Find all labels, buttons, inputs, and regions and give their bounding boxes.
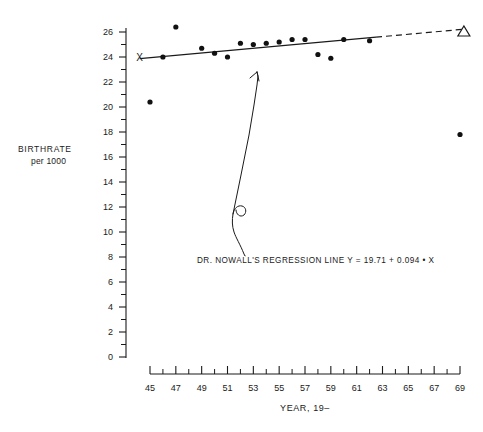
y-tick-label: 2 — [108, 327, 113, 337]
y-tick-label: 20 — [103, 102, 113, 112]
data-point — [315, 52, 320, 57]
end-marker-group — [458, 26, 470, 36]
data-point — [251, 42, 256, 47]
y-tick-label: 12 — [103, 202, 113, 212]
data-point — [277, 39, 282, 44]
y-tick-label: 0 — [108, 352, 113, 362]
chart-canvas: BIRTHRATE per 1000 024681012141618202224… — [0, 0, 483, 432]
data-point — [302, 37, 307, 42]
x-axis-title: YEAR, 19– — [280, 403, 330, 413]
data-point — [147, 99, 152, 104]
x-tick-label: 55 — [274, 383, 284, 393]
data-points-group — [147, 24, 462, 137]
x-tick-label: 47 — [171, 383, 181, 393]
x-start-marker: X — [136, 52, 143, 63]
x-tick-label: 69 — [455, 383, 465, 393]
x-tick-label: 57 — [300, 383, 310, 393]
data-point — [264, 41, 269, 46]
y-axis-ticks: 02468101214161820222426 — [103, 27, 126, 362]
data-point — [160, 54, 165, 59]
y-tick-label: 6 — [108, 277, 113, 287]
data-point — [199, 46, 204, 51]
regression-line-solid — [140, 37, 376, 59]
data-point — [457, 132, 462, 137]
x-tick-label: 61 — [352, 383, 362, 393]
data-point — [173, 24, 178, 29]
x-tick-label: 45 — [145, 383, 155, 393]
x-tick-label: 67 — [429, 383, 439, 393]
data-point — [289, 37, 294, 42]
regression-line-dashed — [376, 29, 464, 37]
open-triangle-projection-marker — [458, 26, 470, 36]
y-tick-label: 4 — [108, 302, 113, 312]
x-tick-label: 59 — [326, 383, 336, 393]
regression-equation-label: DR. NOWALL'S REGRESSION LINE Y = 19.71 +… — [197, 256, 435, 265]
x-axis: 45474951535557596163656769 YEAR, 19– — [145, 366, 465, 413]
start-marker-group: X — [136, 52, 143, 63]
data-point — [212, 51, 217, 56]
y-axis-title-line1: BIRTHRATE — [18, 144, 72, 154]
y-tick-label: 18 — [103, 127, 113, 137]
regression-line-group — [140, 29, 464, 58]
annotation-leader-line — [232, 72, 258, 256]
y-axis-title-line2: per 1000 — [31, 156, 66, 166]
annotation-squiggle — [233, 206, 246, 216]
y-tick-label: 24 — [103, 52, 113, 62]
y-tick-label: 16 — [103, 152, 113, 162]
x-tick-label: 63 — [377, 383, 387, 393]
data-point — [225, 54, 230, 59]
y-tick-label: 8 — [108, 252, 113, 262]
x-tick-label: 53 — [248, 383, 258, 393]
y-axis-title-group: BIRTHRATE per 1000 — [18, 144, 72, 166]
x-tick-label: 65 — [403, 383, 413, 393]
y-axis: 02468101214161820222426 — [103, 27, 126, 362]
y-tick-label: 26 — [103, 27, 113, 37]
data-point — [238, 41, 243, 46]
x-tick-label: 51 — [222, 383, 232, 393]
y-tick-label: 10 — [103, 227, 113, 237]
x-axis-ticks: 45474951535557596163656769 — [145, 366, 465, 393]
data-point — [367, 38, 372, 43]
x-tick-label: 49 — [197, 383, 207, 393]
birthrate-scatter-chart: BIRTHRATE per 1000 024681012141618202224… — [0, 0, 483, 432]
data-point — [328, 56, 333, 61]
y-tick-label: 22 — [103, 77, 113, 87]
data-point — [341, 37, 346, 42]
annotation-group: DR. NOWALL'S REGRESSION LINE Y = 19.71 +… — [197, 72, 435, 265]
y-tick-label: 14 — [103, 177, 113, 187]
